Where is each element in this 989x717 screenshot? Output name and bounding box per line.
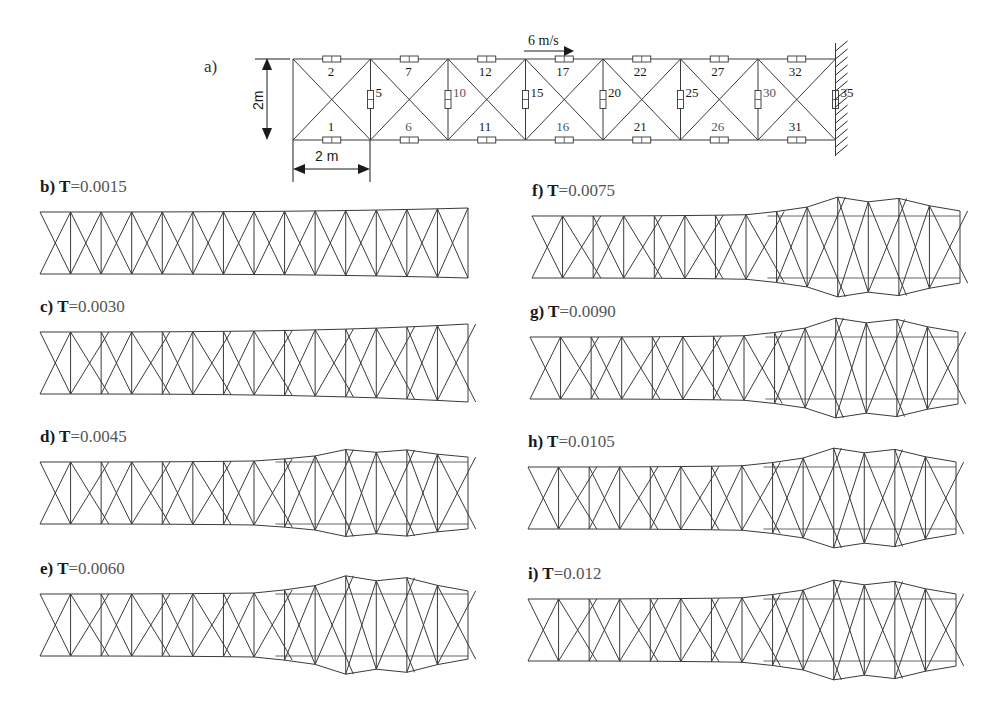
snapshot-truss-c [40,324,476,402]
bottom-chord [40,656,468,674]
diagonal-member [927,327,965,404]
diagonal-member [777,212,808,287]
diagonal-member [376,581,414,673]
diagonal-member [897,327,928,417]
diagonal-member [285,590,316,665]
diagonal-member [929,211,967,288]
diagonal-member [376,327,414,398]
bottom-chord [528,661,956,680]
diagonal-member [437,454,475,529]
diagonal-member [775,328,806,403]
top-chord [40,450,468,462]
snapshot-truss-f [532,197,968,297]
diagonal-member [803,458,841,548]
top-chord [528,580,956,599]
snapshot-truss-b [40,208,468,278]
diagonal-member [746,215,784,283]
diagonal-member [925,594,963,671]
diagonal-member [254,593,292,660]
diagonal-member [899,198,930,288]
snapshot-truss-g [530,318,966,418]
top-chord [530,318,958,337]
diagonal-member [407,326,438,399]
diagonal-member [742,595,780,663]
diagonal-member [346,576,377,669]
diagonal-member [742,463,780,531]
bottom-chord [528,529,956,548]
bottom-chord [40,274,468,278]
diagonal-member [744,333,782,401]
snapshot-truss-h [528,448,964,548]
diagonal-member [346,581,377,674]
diagonal-member [805,318,843,408]
diagonal-member [925,462,963,539]
diagonal-member [407,585,438,672]
snapshot-truss-e [40,576,476,674]
diagonal-member [285,586,316,661]
top-chord [528,448,956,467]
diagonal-member [254,459,292,525]
diagonal-member [929,206,967,283]
diagonal-member [897,319,928,409]
top-chord [40,324,468,332]
diagonal-member [805,328,843,418]
diagonal-member [803,448,841,538]
diagonal-member [437,591,475,665]
diagonal-member [803,580,841,670]
deformation-snapshots-drawing [0,0,989,717]
top-chord [40,576,468,594]
diagonal-member [376,452,414,536]
diagonal-member [925,457,963,534]
diagonal-member [315,586,353,675]
diagonal-member [376,328,414,399]
diagonal-member [803,590,841,680]
diagonal-member [742,466,780,534]
diagonal-member [895,449,926,539]
diagonal-member [773,590,804,665]
diagonal-member [285,459,316,530]
diagonal-member [895,589,926,679]
diagonal-member [437,326,475,402]
diagonal-member [746,212,784,280]
diagonal-member [376,578,414,670]
diagonal-member [927,332,965,409]
bottom-chord [532,278,960,297]
diagonal-member [895,581,926,671]
top-chord [40,208,468,212]
diagonal-member [254,461,292,527]
diagonal-member [807,197,845,287]
diagonal-member [773,463,804,538]
diagonal-member [285,456,316,527]
bottom-chord [530,399,958,418]
diagonal-member [895,457,926,547]
diagonal-member [376,450,414,534]
diagonal-member [807,207,845,297]
diagonal-member [777,207,808,282]
diagonal-member [899,206,930,296]
diagonal-member [775,333,806,408]
diagonal-member [407,578,438,665]
top-chord [532,197,960,216]
diagonal-member [437,324,475,400]
diagonal-member [773,458,804,533]
bottom-chord [40,524,468,536]
diagonal-member [437,457,475,532]
diagonal-member [925,589,963,666]
snapshot-truss-i [528,580,964,680]
diagonal-member [407,327,438,400]
snapshot-truss-d [40,450,476,537]
diagonal-member [744,336,782,404]
diagonal-member [254,590,292,657]
diagonal-member [437,585,475,659]
diagonal-member [773,595,804,670]
bottom-chord [40,394,468,402]
diagonal-member [742,598,780,666]
diagonal-member [315,576,353,665]
